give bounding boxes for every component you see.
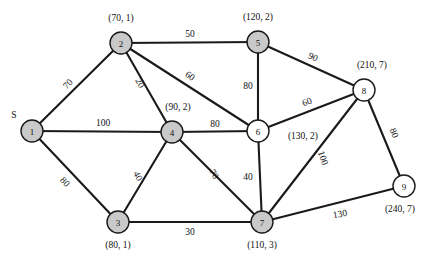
node-id-label-2: 2 (119, 39, 124, 49)
graph-node-9[interactable]: 9 (393, 175, 415, 197)
edge-weight-1-2: 70 (61, 77, 75, 91)
graph-diagram-canvas: 7010080502060403080708090406010013080 12… (0, 0, 432, 263)
node-id-label-7: 7 (260, 218, 265, 228)
edge-weight-2-5: 50 (185, 29, 195, 39)
graph-edge-8-9 (364, 90, 404, 186)
graph-node-4[interactable]: 4 (161, 121, 183, 143)
node-annotation-3: (80, 1) (105, 240, 130, 251)
graph-node-1[interactable]: 1 (21, 120, 43, 142)
graph-node-7[interactable]: 7 (251, 211, 273, 233)
node-id-label-4: 4 (170, 128, 175, 138)
edge-weight-6-7: 40 (243, 172, 253, 182)
node-annotation-6: (130, 2) (288, 131, 318, 142)
node-id-label-8: 8 (362, 86, 367, 96)
node-id-label-6: 6 (256, 127, 261, 137)
node-annotation-8: (210, 7) (357, 60, 387, 71)
node-annotation-7: (110, 3) (247, 240, 277, 251)
node-annotation-4: (90, 2) (165, 102, 190, 113)
graph-edge-4-6 (172, 131, 258, 132)
edge-weight-1-3: 80 (58, 175, 72, 189)
edge-weight-7-8: 100 (316, 150, 330, 167)
edge-weight-6-8: 60 (301, 95, 314, 108)
edge-weight-4-6: 80 (210, 119, 220, 129)
graph-node-2[interactable]: 2 (110, 32, 132, 54)
edge-weight-2-4: 20 (133, 76, 146, 89)
source-node-marker: S (11, 110, 16, 120)
edges-layer (32, 42, 404, 222)
edge-weight-5-8: 90 (307, 50, 320, 63)
edge-weight-5-6: 80 (243, 81, 253, 91)
graph-edge-5-8 (258, 42, 364, 90)
edge-weight-8-9: 80 (388, 127, 401, 140)
edge-weight-labels-layer: 7010080502060403080708090406010013080 (58, 29, 400, 237)
node-annotation-9: (240, 7) (385, 204, 415, 215)
graph-node-5[interactable]: 5 (247, 31, 269, 53)
node-annotation-5: (120, 2) (243, 12, 273, 23)
graph-edge-1-3 (32, 131, 118, 222)
edge-weight-7-9: 130 (332, 208, 348, 221)
graph-edge-2-4 (121, 43, 172, 132)
node-id-label-5: 5 (256, 38, 261, 48)
edge-weight-1-4: 100 (96, 118, 111, 128)
graph-node-6[interactable]: 6 (247, 120, 269, 142)
edge-weight-2-6: 60 (183, 69, 197, 83)
graph-node-8[interactable]: 8 (353, 79, 375, 101)
node-id-label-9: 9 (402, 182, 407, 192)
graph-edge-6-7 (258, 131, 262, 222)
graph-svg: 7010080502060403080708090406010013080 12… (0, 0, 432, 263)
node-id-label-3: 3 (116, 218, 121, 228)
edge-weight-3-7: 30 (185, 227, 195, 237)
node-annotation-2: (70, 1) (108, 13, 133, 24)
graph-edge-2-5 (121, 42, 258, 43)
graph-edge-1-4 (32, 131, 172, 132)
node-id-label-1: 1 (30, 127, 35, 137)
graph-node-3[interactable]: 3 (107, 211, 129, 233)
